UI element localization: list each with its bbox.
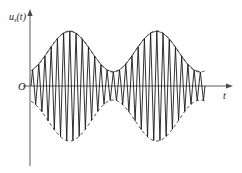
- y-axis-arrowhead: [27, 9, 32, 16]
- y-axis-label: us(t): [9, 11, 27, 23]
- x-axis-label: t: [223, 90, 226, 101]
- am-signal-figure: us(t) O t: [0, 0, 242, 173]
- am-signal-plot: us(t) O t: [0, 0, 242, 173]
- x-axis-arrowhead: [226, 83, 233, 88]
- origin-label: O: [18, 81, 26, 92]
- axes-group: [23, 9, 233, 166]
